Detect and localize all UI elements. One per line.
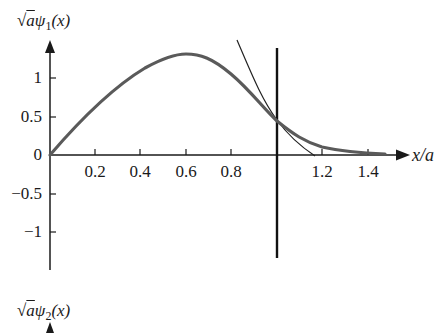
- x-tick-label: 1.4: [348, 163, 388, 180]
- x-tick-label: 0.4: [120, 163, 160, 180]
- panel2-y-axis-label: √aψ2(x): [17, 302, 70, 322]
- panel2-y-axis-arrow-icon: [46, 322, 54, 333]
- x-tick-label: 0.6: [166, 163, 206, 180]
- psi1-curve: [50, 54, 385, 155]
- y-axis-arrow-icon: [45, 40, 55, 53]
- y-tick-label: 0: [2, 146, 42, 163]
- y-tick-label: 0.5: [2, 108, 42, 125]
- y-tick-label: 1: [2, 69, 42, 86]
- y-tick-label: −0.5: [2, 185, 42, 202]
- x-tick-label: 0.2: [75, 163, 115, 180]
- x-axis-arrow-icon: [396, 150, 410, 161]
- y-tick-label: −1: [2, 223, 42, 240]
- x-tick-label: 1.2: [302, 163, 342, 180]
- panel1-y-axis-label: √aψ1(x): [17, 12, 70, 32]
- x-axis-label: x/a: [412, 146, 434, 164]
- x-tick-label: 0.8: [211, 163, 251, 180]
